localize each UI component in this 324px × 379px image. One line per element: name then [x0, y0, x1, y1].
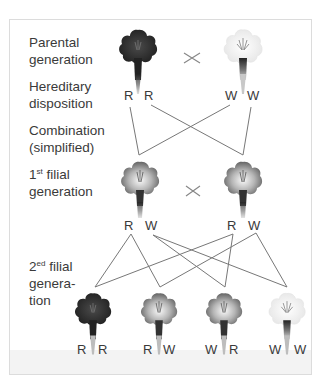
allele-label: R — [98, 343, 107, 357]
line-p-r2-f1-right — [151, 105, 243, 155]
allele-label: R — [144, 89, 153, 103]
cross-symbol-icon — [185, 185, 201, 197]
allele-label: R — [77, 343, 86, 357]
line-p-r1-f1-left — [130, 107, 139, 155]
line-f1r-w-f2-2 — [160, 233, 256, 287]
line-f1r-r-f2-3 — [225, 234, 233, 287]
flower-red-icon — [117, 28, 159, 96]
allele-label: W — [269, 343, 281, 357]
line-f1l-r-f2-2 — [131, 234, 160, 287]
allele-label: R — [227, 219, 236, 233]
flower-pink-icon — [222, 160, 264, 220]
allele-label: W — [248, 219, 260, 233]
allele-label: R — [229, 343, 238, 357]
line-p-w1-f1-left — [139, 105, 230, 155]
allele-label: W — [145, 219, 157, 233]
line-f1r-r-f2-1 — [95, 234, 233, 287]
line-f1l-r-f2-1 — [95, 234, 131, 287]
allele-label: W — [247, 89, 259, 103]
allele-label: R — [124, 219, 133, 233]
allele-label: W — [163, 343, 175, 357]
flower-pink-icon — [119, 160, 161, 220]
allele-label: W — [225, 89, 237, 103]
line-p-w2-f1-right — [243, 107, 251, 155]
allele-label: W — [294, 343, 306, 357]
line-f1r-w-f2-4 — [256, 233, 287, 287]
cross-symbol-icon — [183, 52, 201, 64]
flower-white-icon — [222, 28, 264, 96]
allele-label: W — [205, 343, 217, 357]
allele-label: R — [143, 343, 152, 357]
allele-label: R — [124, 89, 133, 103]
